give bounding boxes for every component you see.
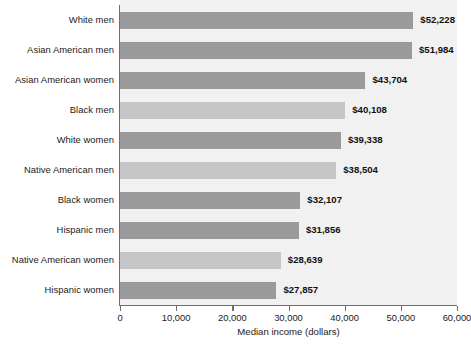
bar: [120, 102, 345, 119]
bar: [120, 222, 299, 239]
bar: [120, 162, 336, 179]
x-tick-mark: [289, 306, 290, 311]
bar-value-label: $28,639: [288, 245, 323, 275]
table-row: Asian American men$51,984: [0, 35, 469, 65]
bar: [120, 282, 276, 299]
category-label: Hispanic men: [57, 215, 114, 245]
bar: [120, 252, 281, 269]
x-tick-mark: [457, 306, 458, 311]
x-tick-label: 60,000: [443, 312, 471, 323]
category-label: Native American men: [24, 155, 114, 185]
x-tick-mark: [401, 306, 402, 311]
table-row: White women$39,338: [0, 125, 469, 155]
x-tick-label: 30,000: [274, 312, 303, 323]
x-axis-title: Median income (dollars): [120, 326, 457, 337]
table-row: Native American women$28,639: [0, 245, 469, 275]
x-axis-ticks: 010,00020,00030,00040,00050,00060,000: [0, 306, 469, 326]
x-tick-mark: [345, 306, 346, 311]
bar-value-label: $51,984: [419, 35, 454, 65]
bar: [120, 132, 341, 149]
category-label: White men: [69, 5, 114, 35]
x-tick-label: 0: [117, 312, 122, 323]
category-label: Hispanic women: [45, 275, 114, 305]
x-tick-mark: [120, 306, 121, 311]
table-row: Black men$40,108: [0, 95, 469, 125]
bar-value-label: $27,857: [283, 275, 318, 305]
table-row: Native American men$38,504: [0, 155, 469, 185]
x-tick-label: 40,000: [330, 312, 359, 323]
category-label: Asian American men: [27, 35, 114, 65]
table-row: Hispanic men$31,856: [0, 215, 469, 245]
table-row: Asian American women$43,704: [0, 65, 469, 95]
category-label: Asian American women: [15, 65, 114, 95]
bar-value-label: $31,856: [306, 215, 341, 245]
category-label: White women: [57, 125, 114, 155]
table-row: Black women$32,107: [0, 185, 469, 215]
x-tick-label: 50,000: [386, 312, 415, 323]
category-label: Black men: [70, 95, 114, 125]
category-label: Native American women: [12, 245, 114, 275]
bar-rows: White men$52,228Asian American men$51,98…: [0, 0, 469, 305]
x-tick-mark: [232, 306, 233, 311]
bar-value-label: $39,338: [348, 125, 383, 155]
bar: [120, 42, 412, 59]
bar: [120, 192, 300, 209]
x-tick-label: 10,000: [162, 312, 191, 323]
bar-value-label: $32,107: [307, 185, 342, 215]
bar-value-label: $38,504: [343, 155, 378, 185]
x-tick-label: 20,000: [218, 312, 247, 323]
bar-value-label: $40,108: [352, 95, 387, 125]
table-row: White men$52,228: [0, 5, 469, 35]
bar: [120, 72, 365, 89]
category-label: Black women: [58, 185, 114, 215]
table-row: Hispanic women$27,857: [0, 275, 469, 305]
bar: [120, 12, 413, 29]
x-tick-mark: [176, 306, 177, 311]
bar-value-label: $43,704: [372, 65, 407, 95]
bar-value-label: $52,228: [420, 5, 455, 35]
